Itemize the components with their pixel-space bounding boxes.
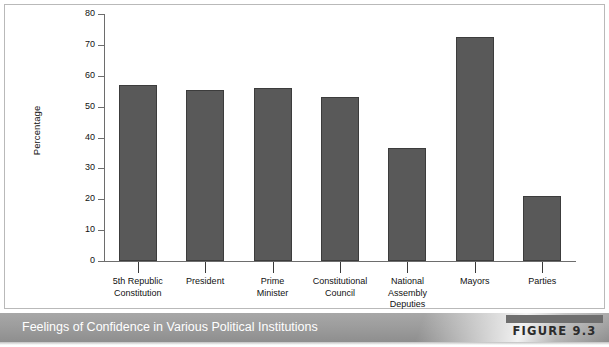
x-axis-tick [407,262,408,273]
y-axis-tick-label-wrap: 10 [65,225,95,235]
y-axis-tick [98,107,104,108]
x-axis-category-label-line: President [171,276,238,288]
x-axis-category-label-line: Parties [509,276,576,288]
y-axis-tick-label: 80 [69,9,95,18]
x-axis-tick [205,262,206,273]
y-axis-tick-label-wrap: 40 [65,133,95,143]
bar [186,90,224,261]
x-axis-category-label-line: Assembly [374,288,441,300]
y-axis-tick-label-wrap: 50 [65,102,95,112]
x-axis-category-label-line: 5th Republic [104,276,171,288]
y-axis-tick-label-wrap: 0 [65,256,95,266]
y-axis-tick [98,230,104,231]
y-axis-title: Percentage [31,76,42,186]
y-axis-tick-label: 70 [69,40,95,49]
figure-container: Percentage 01020304050607080 5th Republi… [0,0,609,347]
y-axis-tick-label: 60 [69,71,95,80]
x-axis-category-label-line: Deputies [374,299,441,311]
y-axis-tick-label: 40 [69,133,95,142]
x-axis-tick [475,262,476,273]
figure-tag-bar-decoration [506,315,603,323]
x-axis-tick [542,262,543,273]
x-axis-category-label-line: Minister [239,288,306,300]
bar [388,148,426,261]
caption-shadow [0,342,609,345]
x-axis-category-label: NationalAssemblyDeputies [374,276,441,311]
y-axis-tick [98,138,104,139]
x-axis-category-label-line: National [374,276,441,288]
y-axis-tick-label-wrap: 30 [65,163,95,173]
y-axis-tick-label-wrap: 20 [65,194,95,204]
bar [456,37,494,261]
y-axis-tick [98,261,104,262]
caption-band: Feelings of Confidence in Various Politi… [0,313,609,342]
x-axis-category-label: 5th RepublicConstitution [104,276,171,299]
y-axis-tick-label: 50 [69,102,95,111]
x-axis-category-label-line: Constitutional [306,276,373,288]
bar [523,196,561,261]
x-axis-category-label-line: Council [306,288,373,300]
x-axis-category-label-line: Prime [239,276,306,288]
x-axis-tick [340,262,341,273]
y-axis-line [104,14,105,262]
y-axis-tick [98,14,104,15]
y-axis-tick-label: 0 [69,256,95,265]
x-axis-category-label: Mayors [441,276,508,288]
y-axis-tick [98,45,104,46]
y-axis-tick-label: 10 [69,225,95,234]
bar [119,85,157,261]
y-axis-tick [98,168,104,169]
y-axis-tick-label: 20 [69,194,95,203]
x-axis-tick [138,262,139,273]
x-axis-category-label: PrimeMinister [239,276,306,299]
x-axis-category-label-line: Mayors [441,276,508,288]
x-axis-category-label: President [171,276,238,288]
x-axis-category-label-line: Constitution [104,288,171,300]
y-axis-tick-label-wrap: 80 [65,9,95,19]
chart-panel: Percentage 01020304050607080 5th Republi… [4,4,605,309]
figure-number-label: FIGURE 9.3 [506,324,603,338]
plot-area: Percentage 01020304050607080 5th Republi… [5,5,606,310]
x-axis-category-label: Parties [509,276,576,288]
y-axis-tick-label-wrap: 70 [65,40,95,50]
y-axis-tick-label-wrap: 60 [65,71,95,81]
x-axis-category-label: ConstitutionalCouncil [306,276,373,299]
x-axis-tick [273,262,274,273]
y-axis-tick-label: 30 [69,163,95,172]
bar [321,97,359,261]
y-axis-tick [98,76,104,77]
figure-caption: Feelings of Confidence in Various Politi… [22,313,318,342]
bar [254,88,292,261]
y-axis-tick [98,199,104,200]
